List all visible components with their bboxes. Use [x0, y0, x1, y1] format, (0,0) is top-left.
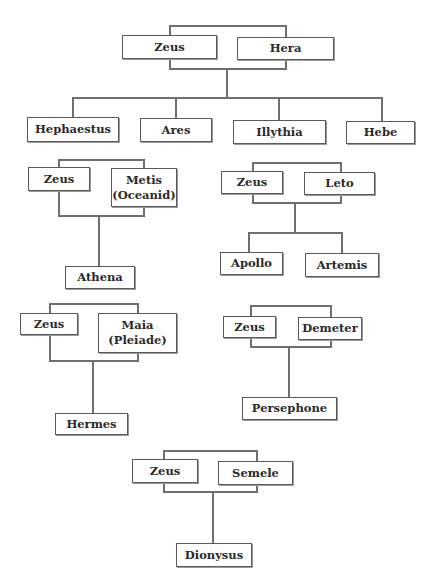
- node-ares: Ares: [140, 118, 212, 142]
- child-drop-apollo: [248, 232, 250, 253]
- node-label: Illythia: [256, 125, 302, 140]
- node-label: Ares: [162, 123, 191, 138]
- sibling-line-zeus-leto: [248, 232, 343, 234]
- node-label: Hera: [270, 41, 302, 56]
- node-metis: Metis (Oceanid): [111, 168, 177, 207]
- node-apollo: Apollo: [220, 252, 283, 275]
- descent-line-zeus-leto: [294, 203, 296, 234]
- descent-line-zeus-metis: [98, 216, 100, 267]
- node-zeus-5: Zeus: [223, 316, 276, 338]
- node-label: Hephaestus: [35, 122, 111, 137]
- node-label-name: Maia: [121, 318, 153, 333]
- node-zeus-4: Zeus: [20, 313, 78, 335]
- node-label-name: Metis: [126, 173, 162, 188]
- node-hebe: Hebe: [346, 121, 415, 144]
- node-label-epithet: (Oceanid): [112, 188, 175, 203]
- child-drop-ares: [175, 97, 177, 119]
- sibling-line-zeus-hera: [72, 97, 383, 99]
- descent-line-zeus-demeter: [288, 347, 290, 398]
- node-label: Athena: [77, 270, 123, 285]
- node-label: Artemis: [317, 258, 368, 273]
- node-label: Demeter: [302, 321, 357, 336]
- node-label: Zeus: [237, 175, 268, 190]
- node-label: Hebe: [364, 125, 398, 140]
- node-hera: Hera: [237, 37, 334, 60]
- node-label: Dionysus: [185, 548, 243, 563]
- node-label: Leto: [325, 176, 353, 191]
- node-hephaestus: Hephaestus: [27, 117, 119, 142]
- node-semele: Semele: [218, 461, 293, 485]
- node-label: Zeus: [34, 317, 65, 332]
- node-label: Zeus: [44, 172, 75, 187]
- node-hermes: Hermes: [55, 413, 128, 435]
- node-leto: Leto: [304, 172, 375, 195]
- node-zeus-3: Zeus: [221, 171, 283, 194]
- node-label: Zeus: [154, 40, 185, 55]
- child-drop-artemis: [341, 232, 343, 254]
- node-label: Semele: [232, 466, 279, 481]
- node-artemis: Artemis: [305, 253, 379, 277]
- node-label: Zeus: [234, 320, 265, 335]
- node-persephone: Persephone: [242, 397, 337, 420]
- node-dionysus: Dionysus: [176, 543, 252, 567]
- node-label: Apollo: [231, 256, 272, 271]
- node-maia: Maia (Pleiade): [98, 313, 177, 353]
- node-illythia: Illythia: [233, 120, 326, 144]
- descent-line-zeus-hera: [226, 69, 228, 99]
- child-drop-illythia: [278, 97, 280, 121]
- child-drop-hebe: [381, 97, 383, 122]
- node-label: Zeus: [150, 464, 181, 479]
- zeus-family-tree: Zeus Hera Hephaestus Ares Illythia Hebe …: [0, 0, 439, 588]
- node-zeus-2: Zeus: [28, 167, 90, 191]
- descent-line-zeus-semele: [212, 492, 214, 544]
- descent-line-zeus-maia: [92, 361, 94, 414]
- child-drop-hephaestus: [72, 97, 74, 118]
- node-zeus-1: Zeus: [122, 35, 217, 59]
- node-label-epithet: (Pleiade): [108, 333, 166, 348]
- node-label: Persephone: [252, 401, 327, 416]
- node-demeter: Demeter: [298, 317, 362, 340]
- node-label: Hermes: [66, 417, 116, 432]
- node-athena: Athena: [65, 266, 135, 289]
- node-zeus-6: Zeus: [132, 459, 198, 483]
